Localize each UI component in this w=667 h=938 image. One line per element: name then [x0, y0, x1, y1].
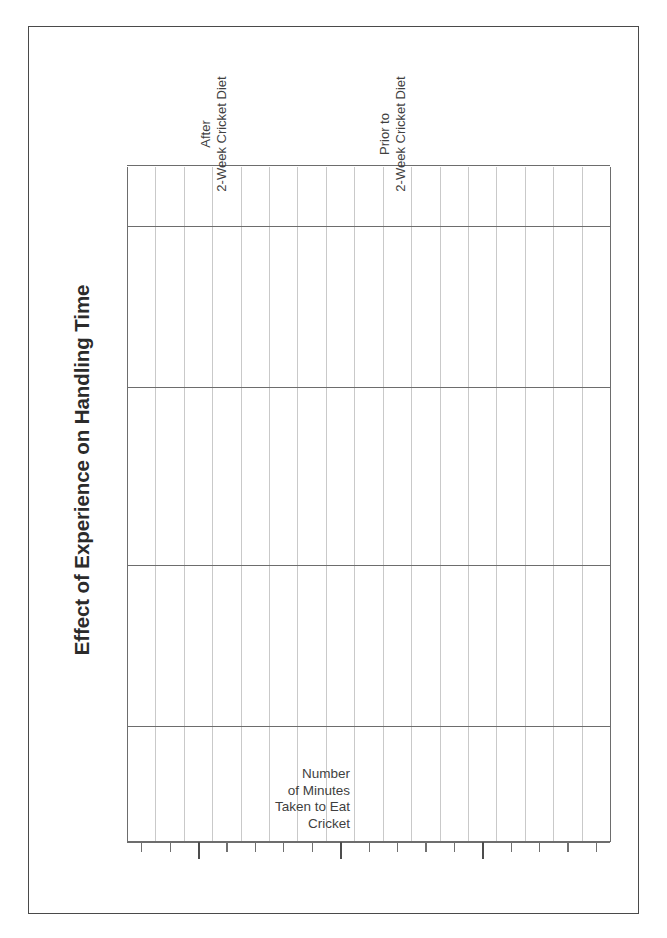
axis-tick-2-major — [198, 842, 200, 859]
category-label-after: After 2-Week Cricket Diet — [198, 44, 230, 224]
grid-line-major-row-1 — [127, 726, 610, 727]
axis-tick-13-minor — [510, 842, 511, 852]
axis-tick-10-minor — [425, 842, 426, 852]
grid-line-column-4 — [240, 167, 241, 842]
grid-line-column-5 — [269, 167, 270, 842]
value-axis-label-line-2: of Minutes — [210, 783, 350, 800]
category-label-prior: Prior to 2-Week Cricket Diet — [377, 44, 409, 224]
axis-tick-7-major — [340, 842, 342, 859]
grid-line-column-15 — [553, 167, 554, 842]
axis-tick-12-major — [482, 842, 484, 859]
axis-tick-1-minor — [169, 842, 170, 852]
grid-line-column-10 — [411, 167, 412, 842]
axis-tick-0-minor — [141, 842, 142, 852]
grid-line-column-8 — [354, 167, 355, 842]
worksheet-page-frame: Effect of Experience on Handling Time Nu… — [28, 26, 639, 914]
grid-line-column-11 — [439, 167, 440, 842]
plot-area — [127, 167, 610, 843]
grid-line-column-0 — [127, 167, 128, 842]
grid-column-lines — [127, 167, 610, 842]
grid-line-column-12 — [467, 167, 468, 842]
chart-title: Effect of Experience on Handling Time — [70, 40, 94, 900]
category-label-prior-line-1: Prior to — [377, 44, 393, 224]
grid-line-column-16 — [581, 167, 582, 842]
grid-line-major-row-0 — [127, 841, 610, 842]
axis-tick-8-minor — [368, 842, 369, 852]
axis-tick-6-minor — [311, 842, 312, 852]
grid-line-column-17 — [610, 167, 611, 842]
value-axis-label-line-1: Number — [210, 766, 350, 783]
axis-tick-4-minor — [254, 842, 255, 852]
chart-figure: Effect of Experience on Handling Time Nu… — [54, 40, 614, 900]
grid-row-lines — [127, 167, 610, 842]
grid-line-column-6 — [297, 167, 298, 842]
grid-line-column-9 — [382, 167, 383, 842]
category-label-after-line-1: After — [198, 44, 214, 224]
value-axis-label: Number of Minutes Taken to Eat Cricket — [210, 766, 350, 832]
value-axis-label-line-4: Cricket — [210, 816, 350, 833]
axis-tick-15-minor — [567, 842, 568, 852]
axis-tick-16-minor — [595, 842, 596, 852]
rotated-chart-figure: Effect of Experience on Handling Time Nu… — [54, 40, 614, 900]
grid-line-major-row-2 — [127, 565, 610, 566]
grid-line-column-14 — [524, 167, 525, 842]
axis-tick-3-minor — [226, 842, 227, 852]
grid-line-column-2 — [183, 167, 184, 842]
axis-tick-9-minor — [396, 842, 397, 852]
grid-line-major-row-3 — [127, 387, 610, 388]
axis-tick-marks — [127, 167, 610, 842]
axis-tick-5-minor — [283, 842, 284, 852]
value-axis-label-line-3: Taken to Eat — [210, 799, 350, 816]
grid-line-column-7 — [325, 167, 326, 842]
category-label-after-line-2: 2-Week Cricket Diet — [214, 44, 230, 224]
axis-tick-14-minor — [538, 842, 539, 852]
grid-line-column-1 — [155, 167, 156, 842]
grid-line-major-row-4 — [127, 226, 610, 227]
grid-line-column-13 — [496, 167, 497, 842]
axis-tick-11-minor — [453, 842, 454, 852]
category-label-prior-line-2: 2-Week Cricket Diet — [393, 44, 409, 224]
grid-line-column-3 — [212, 167, 213, 842]
